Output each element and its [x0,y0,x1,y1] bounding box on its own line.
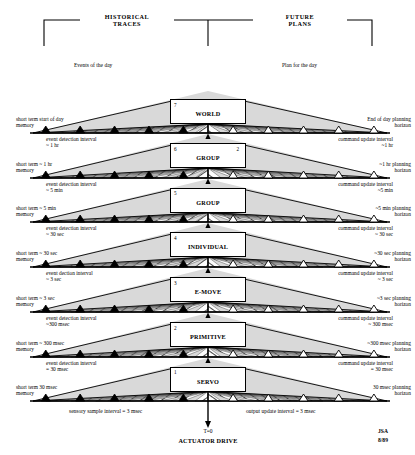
level-number-7: 7 [174,102,177,108]
level-name-e-move: E-MOVE [171,288,245,295]
level-1-planning-horizon-label: 30 msec planning horizon [291,384,411,396]
level-3-command-update-interval: command update interval ~ 300 msec [263,315,393,327]
event-interval-line2: ~ 30 sec [46,231,97,237]
level-6-planning-horizon-label: ~1 hr planning horizon [291,161,411,173]
level-7-planning-horizon-label: End of day planning horizon [291,116,411,128]
actuator-drive-label: ACTUATOR DRIVE [153,438,263,445]
level-3-event-detection-interval: event detection interval ~300 msec [46,315,97,327]
sensory-sample-interval-label: sensory sample interval = 3 msec [69,408,142,414]
level-box-primitive-2[interactable]: 2PRIMITIVE [170,322,246,347]
plan-for-the-day-label: Plan for the day [282,62,317,68]
memory-line2: memory [16,256,57,262]
events-of-the-day-label: Events of the day [74,62,112,68]
level-box-individual-4[interactable]: 4INDIVIDUAL [170,232,246,257]
signature-name: JSA [368,428,398,435]
level-2-short-term-memory-label: short term ~ 300 msec memory [16,340,64,352]
level-2-planning-horizon-label: ~300 msec planning horizon [291,340,411,352]
level-name-servo: SERVO [171,378,245,385]
level-box-group-6[interactable]: 62GROUP [170,143,246,168]
level-number-5: 5 [174,190,177,196]
level-corner-number-6: 2 [236,146,239,152]
memory-line2: memory [16,122,64,128]
level-name-group: GROUP [171,199,245,206]
level-4-planning-horizon-label: ~30 sec planning horizon [291,250,411,262]
level-box-world-7[interactable]: 7WORLD [170,99,246,124]
command-interval-line2: ~1 hr [263,142,393,148]
future-plans-line2: PLANS [255,21,345,28]
level-number-3: 3 [174,280,177,286]
horizon-line2: horizon [291,211,411,217]
memory-line2: memory [16,346,64,352]
horizon-line2: horizon [291,390,411,396]
horizon-line2: horizon [291,301,411,307]
event-interval-line2: ~ 1 hr [46,142,97,148]
command-interval-line2: ~5 min [263,187,393,193]
horizon-line2: horizon [291,346,411,352]
level-6-short-term-memory-label: short term ~ 1 hr memory [16,161,52,173]
level-name-primitive: PRIMITIVE [171,333,245,340]
horizon-line2: horizon [291,122,411,128]
level-name-world: WORLD [171,110,245,117]
command-interval-line2: = 30 msec [263,366,393,372]
event-interval-line2: ~300 msec [46,321,97,327]
level-7-short-term-memory-label: short term start of day memory [16,116,64,128]
level-7-command-update-interval: command update interval ~1 hr [263,136,393,148]
memory-line2: memory [16,167,52,173]
level-box-group-5[interactable]: 5GROUP [170,188,246,213]
command-interval-line2: ~ 30 sec [263,231,393,237]
level-3-short-term-memory-label: short term ~ 3 sec memory [16,295,55,307]
level-number-4: 4 [174,235,177,241]
future-plans-label: FUTURE PLANS [255,14,345,28]
level-4-short-term-memory-label: short term ~ 30 sec memory [16,250,57,262]
level-3-planning-horizon-label: ~3 sec planning horizon [291,295,411,307]
event-interval-line2: ~ 5 min [46,187,97,193]
level-number-2: 2 [174,325,177,331]
level-number-1: 1 [174,369,177,375]
historical-traces-label: HISTORICAL TRACES [82,14,172,28]
command-interval-line2: ~ 3 sec [263,276,393,282]
level-4-command-update-interval: command update interval ~ 3 sec [263,270,393,282]
signature-date: 8/89 [368,437,398,444]
level-number-6: 6 [174,146,177,152]
level-7-event-detection-interval: event detection interval ~ 1 hr [46,136,97,148]
memory-line2: memory [16,211,56,217]
output-update-interval-label: output update interval = 3 msec [246,408,316,414]
level-5-short-term-memory-label: short term ~ 5 min memory [16,205,56,217]
memory-line2: memory [16,301,55,307]
command-interval-line2: ~ 300 msec [263,321,393,327]
level-box-e-move-3[interactable]: 3E-MOVE [170,277,246,302]
level-6-command-update-interval: command update interval ~5 min [263,181,393,193]
level-2-command-update-interval: command update interval = 30 msec [263,360,393,372]
level-2-event-detection-interval: event detection interval = 30 msec [46,360,97,372]
actuator-drive-arrowhead [205,421,211,428]
level-name-individual: INDIVIDUAL [171,243,245,250]
horizon-line2: horizon [291,256,411,262]
level-5-command-update-interval: command update interval ~ 30 sec [263,225,393,237]
level-box-servo-1[interactable]: 1SERVO [170,367,246,392]
t-zero-label: T=0 [178,428,238,434]
level-1-short-term-memory-label: short term 30 msec memory [16,384,57,396]
level-4-event-detection-interval: event dection interval ~ 3 sec [46,270,93,282]
level-name-group: GROUP [171,154,245,161]
memory-line2: memory [16,390,57,396]
historical-traces-line2: TRACES [82,21,172,28]
level-6-event-detection-interval: event detection interval ~ 5 min [46,181,97,193]
rcs-timing-diagram: HISTORICAL TRACES FUTURE PLANS Events of… [0,0,415,455]
level-5-event-detection-interval: event detection interval ~ 30 sec [46,225,97,237]
level-5-planning-horizon-label: ~5 min planning horizon [291,205,411,217]
event-interval-line2: ~ 3 sec [46,276,93,282]
event-interval-line2: = 30 msec [46,366,97,372]
horizon-line2: horizon [291,167,411,173]
